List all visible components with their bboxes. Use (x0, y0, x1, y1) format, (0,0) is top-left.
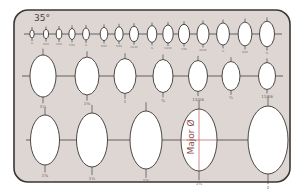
ellipse-hole (31, 115, 60, 165)
ellipse-hole (163, 25, 173, 43)
size-label: 2 (267, 185, 270, 190)
ellipse-hole (30, 30, 34, 38)
ellipse-hole (130, 111, 162, 169)
size-label: 1⅜ (42, 173, 49, 178)
angle-label: 35° (34, 13, 50, 23)
size-label: 13/32 (164, 47, 172, 50)
ellipse-hole (222, 62, 240, 91)
ellipse-hole (56, 29, 62, 39)
size-label: 5/32 (43, 43, 49, 46)
size-label: 1 (124, 99, 127, 104)
size-label: 15/32 (199, 49, 207, 52)
ellipse-hole (77, 113, 108, 167)
size-label: 7/32 (69, 44, 75, 47)
size-label: 1⅛ (84, 101, 91, 106)
size-label: 9/32 (101, 45, 107, 48)
size-label: 7/16 (181, 48, 187, 51)
size-label: 13/16 (192, 97, 204, 102)
size-label: 1¼ (40, 104, 47, 109)
size-label: 5/16 (116, 45, 122, 48)
ellipse-hole (30, 55, 56, 97)
ellipse-hole (147, 26, 157, 43)
size-label: 1⅝ (143, 178, 150, 183)
ellipse-hole (130, 26, 139, 42)
size-label: 3/16 (56, 43, 62, 46)
ellipse-hole (100, 27, 108, 40)
major-diameter-label: Major Ø (186, 120, 196, 155)
ellipse-hole (44, 30, 49, 39)
ellipse-hole (260, 21, 275, 47)
ellipse-hole (248, 106, 288, 174)
ellipse-hole (75, 57, 99, 95)
ellipse-hole (189, 61, 208, 92)
ellipse-hole (69, 29, 75, 40)
size-label: 11/16 (261, 94, 273, 99)
ellipse-hole (178, 24, 189, 43)
size-label: 1¾ (196, 181, 203, 186)
ellipse-hole (217, 23, 230, 45)
ellipse-hole (115, 27, 123, 41)
ellipse-template-diagram: ⅛5/323/167/32¼9/325/1611/32⅜13/327/1615/… (0, 0, 301, 194)
ellipse-hole (114, 59, 136, 94)
size-label: ⅞ (161, 98, 165, 103)
ellipse-hole (83, 28, 90, 40)
size-label: 11/32 (130, 46, 138, 49)
ellipse-hole (259, 63, 276, 90)
ellipse-hole (153, 60, 173, 93)
ellipse-hole (197, 24, 209, 45)
size-label: 9/16 (242, 51, 248, 54)
size-label: ¾ (229, 95, 233, 100)
ellipse-hole (238, 22, 252, 46)
size-label: 1½ (89, 176, 96, 181)
